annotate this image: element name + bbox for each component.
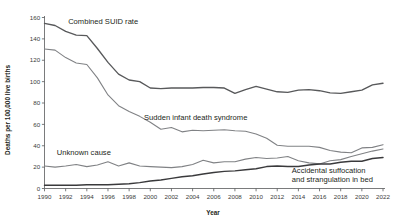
annotation-combined-suid-rate: Combined SUID rate	[68, 17, 138, 26]
x-tick-label: 2006	[207, 193, 221, 200]
x-tick-label: 2008	[228, 193, 242, 200]
annotation-accidental-suffocation-line1: Accidental suffocation	[292, 166, 366, 175]
chart-canvas: 020406080100120140160 199019921994199619…	[0, 0, 395, 220]
y-tick-label: 20	[33, 163, 40, 170]
x-tick-label: 2000	[143, 193, 157, 200]
x-tick-label: 2018	[334, 193, 348, 200]
line-chart: 020406080100120140160 199019921994199619…	[0, 0, 395, 220]
y-tick-label: 80	[33, 99, 40, 106]
x-axis-title: Year	[206, 209, 220, 216]
x-tick-label: 2016	[313, 193, 327, 200]
x-tick-label: 2004	[186, 193, 200, 200]
y-tick-label: 60	[33, 121, 40, 128]
x-tick-label: 2010	[249, 193, 263, 200]
x-tick-label: 2022	[376, 193, 390, 200]
y-tick-label: 0	[37, 185, 41, 192]
annotation-accidental-suffocation-line2: and strangulation in bed	[292, 175, 373, 184]
y-tick-label: 40	[33, 142, 40, 149]
x-tick-label: 1992	[59, 193, 73, 200]
x-tick-label: 2002	[165, 193, 179, 200]
x-tick-label: 2014	[291, 193, 305, 200]
x-tick-label: 1990	[38, 193, 52, 200]
x-tick-label: 2012	[270, 193, 284, 200]
y-tick-label: 100	[30, 78, 41, 85]
x-axis: 1990199219941996199820002002200420062008…	[38, 189, 391, 200]
x-tick-label: 1994	[80, 193, 94, 200]
x-tick-label: 2020	[355, 193, 369, 200]
annotation-unknown-cause: Unknown cause	[57, 148, 111, 157]
x-tick-label: 1996	[101, 193, 115, 200]
x-tick-label: 1998	[122, 193, 136, 200]
y-axis: 020406080100120140160	[30, 14, 45, 192]
y-axis-title: Deaths per 100,000 live births	[4, 65, 12, 155]
series-line-sudden-infant-death-syndrome	[45, 49, 384, 153]
y-tick-label: 120	[30, 56, 41, 63]
series-line-combined-suid-rate	[45, 23, 384, 93]
y-tick-label: 160	[30, 14, 41, 21]
y-tick-label: 140	[30, 35, 41, 42]
annotation-sids: Sudden infant death syndrome	[144, 113, 247, 122]
series-lines	[45, 23, 384, 185]
